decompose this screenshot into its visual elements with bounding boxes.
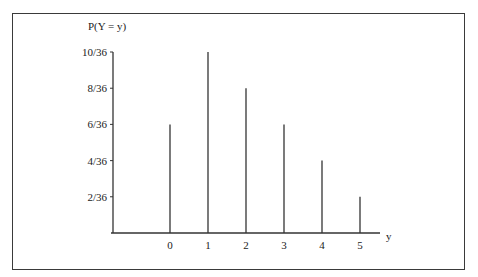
x-tick-label: 0 [167, 239, 173, 251]
x-tick-label: 5 [357, 239, 363, 251]
x-tick-label: 2 [243, 239, 249, 251]
x-axis-label: y [386, 230, 392, 242]
y-tick-label: 8/36 [87, 82, 107, 94]
x-tick-label: 1 [205, 239, 211, 251]
y-tick-label: 4/36 [87, 155, 107, 167]
y-axis-label: P(Y = y) [88, 20, 127, 33]
x-tick-label: 4 [319, 239, 325, 251]
stem-chart: P(Y = y)y2/364/366/368/3610/36012345 [0, 0, 478, 277]
x-tick-label: 3 [281, 239, 287, 251]
y-tick-label: 10/36 [82, 46, 108, 58]
y-tick-label: 2/36 [87, 191, 107, 203]
y-tick-label: 6/36 [87, 118, 107, 130]
